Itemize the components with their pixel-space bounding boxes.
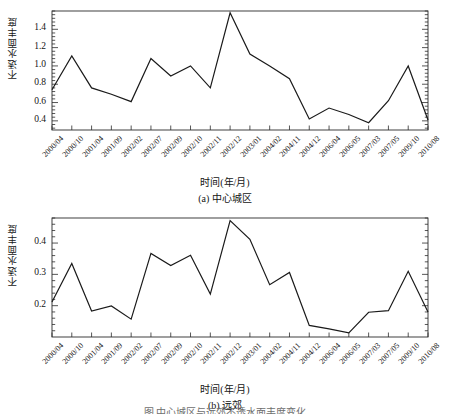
y-tick-label: 0.4 [20,114,46,124]
panel-caption-a: (a) 中心城区 [0,190,450,205]
data-series-line [52,13,428,123]
figure-container: 不透水面丰度 时间(年/月) (a) 中心城区 0.40.60.81.01.21… [0,0,450,414]
x-axis-title-b: 时间(年/月) [0,381,450,396]
y-tick-label: 0.3 [20,267,46,277]
y-tick-label: 1.2 [20,41,46,51]
chart-panel-a: 不透水面丰度 时间(年/月) (a) 中心城区 0.40.60.81.01.21… [0,0,450,207]
y-tick-label: 0.6 [20,96,46,106]
y-tick-label: 0.8 [20,77,46,87]
figure-caption: 图 中心城区与远郊不透水面丰度变化 [0,404,450,414]
plot-frame [52,218,428,337]
chart-panel-b: 不透水面丰度 时间(年/月) (b) 远郊 0.20.30.42000/0420… [0,207,450,414]
x-axis-title-a: 时间(年/月) [0,174,450,189]
data-series-line [52,221,428,333]
y-tick-label: 0.4 [20,236,46,246]
y-axis-title-a: 不透水面丰度 [6,16,20,79]
y-tick-label: 1.0 [20,59,46,69]
y-tick-label: 1.4 [20,22,46,32]
y-tick-label: 0.2 [20,299,46,309]
y-axis-title-b: 不透水面丰度 [6,223,20,286]
plot-frame [52,11,428,130]
